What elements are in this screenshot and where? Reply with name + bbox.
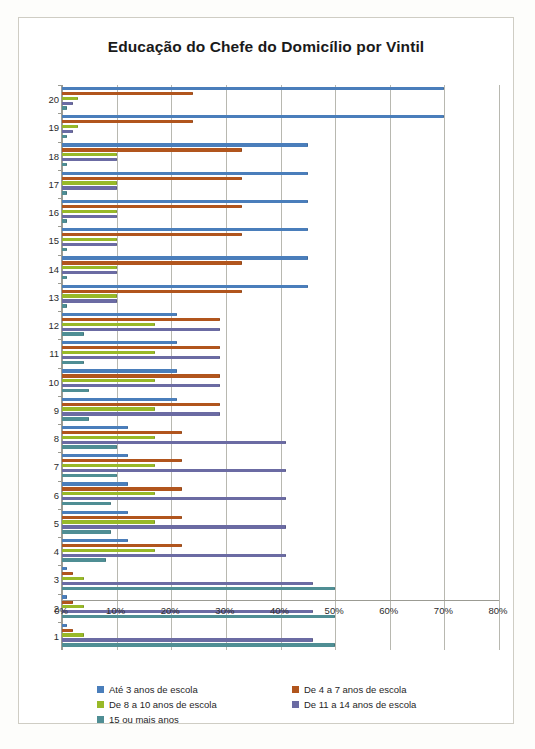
legend-item[interactable]: De 8 a 10 anos de escola — [97, 699, 217, 710]
bar[interactable] — [62, 186, 117, 189]
bar[interactable] — [62, 106, 67, 109]
bar[interactable] — [62, 285, 308, 288]
bar[interactable] — [62, 266, 117, 269]
bar[interactable] — [62, 181, 117, 184]
bar[interactable] — [62, 238, 117, 241]
bar[interactable] — [62, 643, 335, 646]
bar[interactable] — [62, 577, 84, 580]
bar[interactable] — [62, 200, 308, 203]
bar[interactable] — [62, 115, 444, 118]
bar[interactable] — [62, 346, 220, 349]
bar[interactable] — [62, 554, 286, 557]
bar[interactable] — [62, 294, 117, 297]
bar[interactable] — [62, 379, 155, 382]
bar[interactable] — [62, 445, 117, 448]
bar[interactable] — [62, 87, 444, 90]
bar[interactable] — [62, 567, 67, 570]
legend-item[interactable]: Até 3 anos de escola — [97, 684, 198, 695]
bar[interactable] — [62, 530, 111, 533]
bar[interactable] — [62, 572, 73, 575]
bar[interactable] — [62, 332, 84, 335]
bar[interactable] — [62, 629, 73, 632]
bar[interactable] — [62, 516, 182, 519]
bar[interactable] — [62, 261, 242, 264]
bar[interactable] — [62, 148, 242, 151]
bar[interactable] — [62, 143, 308, 146]
legend-item[interactable]: 15 ou mais anos — [97, 714, 179, 725]
bar[interactable] — [62, 412, 220, 415]
bar[interactable] — [62, 135, 67, 138]
bar[interactable] — [62, 158, 117, 161]
bar[interactable] — [62, 441, 286, 444]
bar[interactable] — [62, 384, 220, 387]
bar[interactable] — [62, 492, 155, 495]
bar[interactable] — [62, 497, 286, 500]
bar[interactable] — [62, 233, 242, 236]
bar[interactable] — [62, 403, 220, 406]
bar[interactable] — [62, 624, 67, 627]
bar[interactable] — [62, 417, 89, 420]
bar[interactable] — [62, 177, 242, 180]
bar[interactable] — [62, 539, 128, 542]
bar[interactable] — [62, 271, 117, 274]
bar[interactable] — [62, 153, 117, 156]
bar[interactable] — [62, 487, 182, 490]
bar[interactable] — [62, 97, 78, 100]
legend-item[interactable]: De 4 a 7 anos de escola — [292, 684, 406, 695]
bar[interactable] — [62, 587, 335, 590]
bar[interactable] — [62, 595, 67, 598]
bar[interactable] — [62, 210, 117, 213]
bar[interactable] — [62, 469, 286, 472]
bar[interactable] — [62, 369, 177, 372]
bar[interactable] — [62, 205, 242, 208]
bar[interactable] — [62, 125, 78, 128]
bar[interactable] — [62, 436, 155, 439]
bar[interactable] — [62, 474, 117, 477]
bar[interactable] — [62, 431, 182, 434]
bar[interactable] — [62, 248, 67, 251]
bar[interactable] — [62, 633, 84, 636]
bar[interactable] — [62, 341, 177, 344]
bar[interactable] — [62, 454, 128, 457]
bar[interactable] — [62, 582, 313, 585]
bar[interactable] — [62, 389, 89, 392]
bar[interactable] — [62, 520, 155, 523]
bar[interactable] — [62, 304, 67, 307]
bar[interactable] — [62, 313, 177, 316]
bar[interactable] — [62, 243, 117, 246]
bar[interactable] — [62, 638, 313, 641]
bar[interactable] — [62, 549, 155, 552]
bar[interactable] — [62, 102, 73, 105]
bar[interactable] — [62, 426, 128, 429]
bar[interactable] — [62, 374, 220, 377]
bar[interactable] — [62, 219, 67, 222]
bar[interactable] — [62, 525, 286, 528]
bar[interactable] — [62, 398, 177, 401]
bar[interactable] — [62, 558, 106, 561]
bar[interactable] — [62, 459, 182, 462]
bar[interactable] — [62, 299, 117, 302]
bar[interactable] — [62, 290, 242, 293]
bar[interactable] — [62, 356, 220, 359]
bar[interactable] — [62, 172, 308, 175]
bar[interactable] — [62, 228, 308, 231]
bar[interactable] — [62, 215, 117, 218]
bar[interactable] — [62, 361, 84, 364]
bar[interactable] — [62, 544, 182, 547]
bar[interactable] — [62, 482, 128, 485]
legend-item[interactable]: De 11 a 14 anos de escola — [292, 699, 416, 710]
bar[interactable] — [62, 130, 73, 133]
bar[interactable] — [62, 502, 111, 505]
bar[interactable] — [62, 163, 67, 166]
bar[interactable] — [62, 464, 155, 467]
bar[interactable] — [62, 328, 220, 331]
bar[interactable] — [62, 318, 220, 321]
bar[interactable] — [62, 256, 308, 259]
bar[interactable] — [62, 120, 193, 123]
bar[interactable] — [62, 92, 193, 95]
bar[interactable] — [62, 276, 67, 279]
bar[interactable] — [62, 407, 155, 410]
bar[interactable] — [62, 511, 128, 514]
bar[interactable] — [62, 191, 67, 194]
bar[interactable] — [62, 323, 155, 326]
